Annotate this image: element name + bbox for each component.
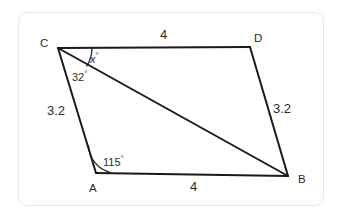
degree-symbol-115: ° xyxy=(121,154,124,163)
vertex-label-D: D xyxy=(254,33,262,45)
geometry-figure-canvas: C D B A 4 4 3.2 3.2 x° 32° 115° xyxy=(0,0,343,218)
side-length-AB: 4 xyxy=(190,180,197,193)
angle-label-115: 115° xyxy=(103,155,124,168)
side-length-AC: 3.2 xyxy=(47,104,65,117)
side-length-CD: 4 xyxy=(160,28,167,41)
side-length-DB: 3.2 xyxy=(273,102,291,115)
vertex-label-A: A xyxy=(89,183,97,195)
angle-label-x: x° xyxy=(90,52,99,65)
vertex-label-B: B xyxy=(298,174,306,186)
angle-115-value: 115 xyxy=(103,156,121,168)
vertex-label-C: C xyxy=(40,38,48,50)
edge-CD xyxy=(58,47,250,48)
angle-32-value: 32 xyxy=(72,71,84,83)
edge-CB-diagonal xyxy=(58,48,288,176)
degree-symbol-x: ° xyxy=(96,51,99,60)
angle-label-32: 32° xyxy=(72,70,87,83)
degree-symbol-32: ° xyxy=(84,69,87,78)
edge-BA xyxy=(96,173,288,176)
